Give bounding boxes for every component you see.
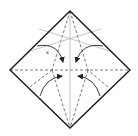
lower-left-arrow xyxy=(40,76,62,96)
valley-line xyxy=(30,70,52,87)
crease-line xyxy=(27,29,101,52)
crease-line xyxy=(39,29,113,52)
crease-lines xyxy=(10,11,130,128)
origami-diagram: x xyxy=(0,0,138,136)
lower-right-arrow xyxy=(78,76,100,96)
valley-line xyxy=(88,70,108,87)
fold-mark-label: x xyxy=(46,49,49,55)
